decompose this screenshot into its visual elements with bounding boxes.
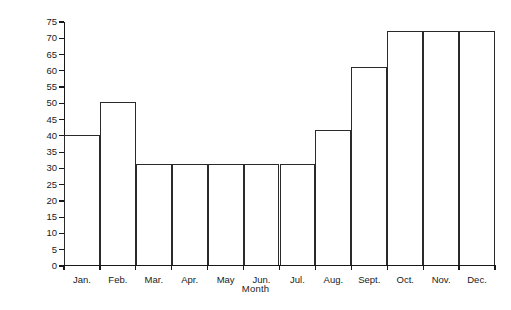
bar [136,164,172,265]
y-axis-tick-label: 5 [52,245,57,255]
x-axis-tick [351,265,352,270]
bar [423,31,459,265]
bar [315,130,351,265]
x-axis-tick [279,265,280,270]
y-axis-tick-label: 50 [46,99,57,109]
y-axis-tick-label: 15 [46,212,57,222]
x-axis-tick [458,265,459,270]
x-axis-tick [99,265,100,270]
bar-chart: Number 051015202530354045505560657075 Ja… [0,0,511,310]
plot-area: 051015202530354045505560657075 Jan.Feb.M… [64,22,495,266]
x-axis-tick [135,265,136,270]
x-axis-tick [207,265,208,270]
y-axis-tick-label: 25 [46,180,57,190]
y-axis-tick-label: 65 [46,50,57,60]
y-axis-tick-label: 70 [46,34,57,44]
x-axis-tick [423,265,424,270]
y-axis-tick [59,70,64,71]
x-axis-tick [387,265,388,270]
y-axis-tick [59,86,64,87]
y-axis-tick-label: 60 [46,66,57,76]
y-axis-tick-label: 35 [46,147,57,157]
x-axis-tick [315,265,316,270]
y-axis-tick-label: 45 [46,115,57,125]
y-axis-tick [59,54,64,55]
y-axis-tick-label: 30 [46,164,57,174]
x-axis-tick [63,265,64,270]
x-axis-tick [494,265,495,270]
x-axis-tick [171,265,172,270]
bar [280,164,316,265]
bar [208,164,244,265]
bar [100,102,136,265]
y-axis-tick-label: 10 [46,229,57,239]
bar [459,31,495,265]
y-axis-tick-label: 55 [46,82,57,92]
bar [64,135,100,265]
y-axis-tick-label: 40 [46,131,57,141]
y-axis-tick [59,21,64,22]
bar [172,164,208,265]
bar [387,31,423,265]
y-axis-tick-label: 75 [46,17,57,27]
y-axis-tick [59,103,64,104]
y-axis-tick-label: 0 [52,261,57,271]
y-axis-tick [59,119,64,120]
y-axis-tick-label: 20 [46,196,57,206]
x-axis-title: Month [0,283,511,294]
x-axis-tick [243,265,244,270]
bar [244,164,280,265]
y-axis-tick [59,38,64,39]
bar [351,67,387,265]
